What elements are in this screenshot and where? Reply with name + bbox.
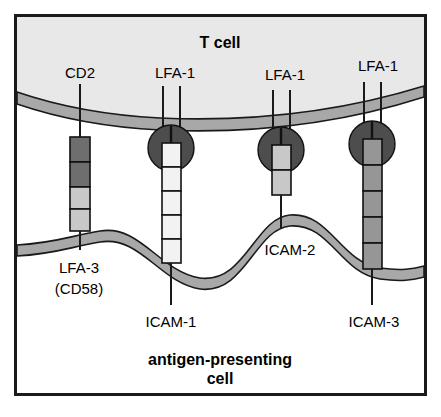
label-lfa1-icam3: LFA-1 <box>358 57 398 74</box>
label-icam2: ICAM-2 <box>265 241 316 258</box>
lfa3-segment-2 <box>70 209 90 231</box>
icam3-segment-2 <box>363 165 382 191</box>
cd2-segment-2 <box>70 162 90 187</box>
icam3-segment-3 <box>363 191 382 217</box>
label-icam3: ICAM-3 <box>349 313 400 330</box>
label-cd58: (CD58) <box>55 280 103 297</box>
label-lfa1-icam1: LFA-1 <box>155 64 195 81</box>
cd2-segment-1 <box>70 137 90 162</box>
apc-title-line2: cell <box>207 370 234 387</box>
label-lfa1-icam2: LFA-1 <box>265 66 305 83</box>
icam1-segment-4 <box>162 215 181 239</box>
icam1-segment-2 <box>162 167 181 191</box>
icam2-segment-1 <box>272 145 291 170</box>
label-icam1: ICAM-1 <box>146 313 197 330</box>
icam3-segment-5 <box>363 243 382 269</box>
lfa3-segment-1 <box>70 187 90 209</box>
apc-title-line1: antigen-presenting <box>148 351 292 368</box>
label-cd2: CD2 <box>65 64 95 81</box>
icam3-segment-1 <box>363 139 382 165</box>
immunology-diagram: T cell CD2 LFA-1 LFA-1 LFA-1 LFA-3 (CD58… <box>0 0 441 417</box>
label-lfa3: LFA-3 <box>59 259 99 276</box>
icam2-segment-2 <box>272 170 291 195</box>
icam3-segment-4 <box>363 217 382 243</box>
icam1-segment-5 <box>162 239 181 263</box>
icam1-segment-1 <box>162 143 181 167</box>
icam1-segment-3 <box>162 191 181 215</box>
diagram-canvas: T cell CD2 LFA-1 LFA-1 LFA-1 LFA-3 (CD58… <box>0 0 441 417</box>
tcell-title: T cell <box>200 34 241 51</box>
